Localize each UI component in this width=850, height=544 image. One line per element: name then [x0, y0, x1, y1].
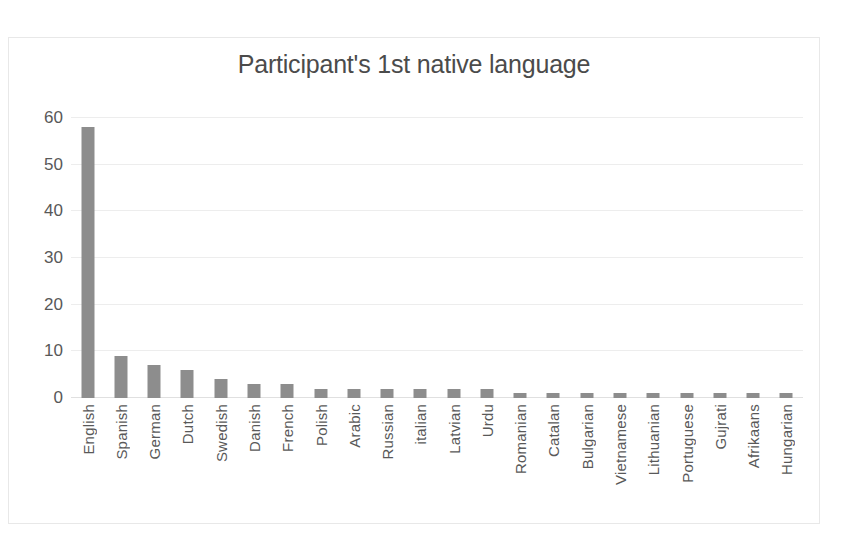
bar-slot — [171, 118, 204, 398]
x-axis-tick: Vietnamese — [612, 404, 629, 485]
bar[interactable] — [780, 393, 793, 398]
bar-slot — [537, 118, 570, 398]
bar[interactable] — [647, 393, 660, 398]
bar-slot — [637, 118, 670, 398]
x-axis-tick: Catalan — [545, 404, 562, 457]
bar-slot — [271, 118, 304, 398]
chart-container: Participant's 1st native language 010203… — [8, 37, 820, 524]
bar[interactable] — [281, 384, 294, 398]
x-axis-tick: Gujrati — [712, 404, 729, 450]
bar-slot — [71, 118, 104, 398]
y-axis-tick: 10 — [44, 341, 63, 361]
bar[interactable] — [514, 393, 527, 398]
x-axis-tick: Romanian — [512, 404, 529, 474]
y-axis-tick: 60 — [44, 108, 63, 128]
bar[interactable] — [314, 389, 327, 398]
bar[interactable] — [680, 393, 693, 398]
bar-slot — [370, 118, 403, 398]
x-axis-tick: Hungarian — [778, 404, 795, 475]
bar-slot — [104, 118, 137, 398]
bar[interactable] — [247, 384, 260, 398]
bar-slot — [138, 118, 171, 398]
y-axis-tick: 50 — [44, 155, 63, 175]
bar-series — [71, 118, 803, 398]
bar[interactable] — [181, 370, 194, 398]
bar-slot — [237, 118, 270, 398]
bar[interactable] — [381, 389, 394, 398]
x-axis-tick: Dutch — [179, 404, 196, 444]
bar-slot — [703, 118, 736, 398]
x-axis-tick: German — [146, 404, 163, 459]
bar[interactable] — [580, 393, 593, 398]
x-axis-tick: English — [80, 404, 97, 455]
x-axis-tick: Arabic — [346, 404, 363, 448]
bar-slot — [437, 118, 470, 398]
y-axis-tick-labels: 0102030405060 — [9, 118, 63, 398]
x-axis-tick: Urdu — [479, 404, 496, 437]
bar[interactable] — [747, 393, 760, 398]
x-axis-tick-labels: EnglishSpanishGermanDutchSwedishDanishFr… — [71, 404, 803, 534]
x-axis-tick: French — [279, 404, 296, 452]
y-axis-tick: 0 — [54, 388, 63, 408]
bar-slot — [736, 118, 769, 398]
bar[interactable] — [214, 379, 227, 398]
x-axis-tick: Spanish — [113, 404, 130, 460]
bar[interactable] — [447, 389, 460, 398]
y-axis-tick: 30 — [44, 248, 63, 268]
bar-slot — [337, 118, 370, 398]
bar[interactable] — [148, 365, 161, 398]
bar[interactable] — [81, 127, 94, 398]
bar[interactable] — [547, 393, 560, 398]
x-axis-tick: Swedish — [213, 404, 230, 462]
x-axis-tick: Danish — [246, 404, 263, 452]
bar[interactable] — [480, 389, 493, 398]
bar-slot — [470, 118, 503, 398]
bar-slot — [504, 118, 537, 398]
x-axis-tick: Bulgarian — [579, 404, 596, 469]
x-axis-tick: Lithuanian — [645, 404, 662, 475]
bar-slot — [670, 118, 703, 398]
bar-slot — [570, 118, 603, 398]
bar[interactable] — [713, 393, 726, 398]
bar-slot — [204, 118, 237, 398]
x-axis-tick: Polish — [313, 404, 330, 446]
x-axis-tick: Afrikaans — [745, 404, 762, 468]
bar-slot — [404, 118, 437, 398]
bar[interactable] — [347, 389, 360, 398]
bar-slot — [603, 118, 636, 398]
bar[interactable] — [613, 393, 626, 398]
x-axis-tick: Latvian — [446, 404, 463, 454]
y-axis-tick: 40 — [44, 201, 63, 221]
x-axis-tick: Portuguese — [679, 404, 696, 483]
y-axis-tick: 20 — [44, 295, 63, 315]
bar[interactable] — [414, 389, 427, 398]
chart-title: Participant's 1st native language — [9, 50, 819, 79]
bar-slot — [770, 118, 803, 398]
x-axis-tick: italian — [412, 404, 429, 445]
bar[interactable] — [114, 356, 127, 398]
bar-slot — [304, 118, 337, 398]
x-axis-tick: Russian — [379, 404, 396, 460]
